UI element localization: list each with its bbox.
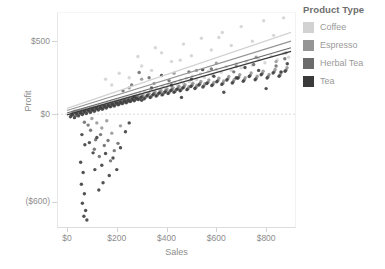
data-point — [221, 31, 224, 34]
data-point — [83, 192, 86, 195]
data-point — [93, 168, 96, 171]
data-point — [172, 91, 175, 94]
y-axis-title: Profit — [23, 71, 33, 131]
data-point — [85, 218, 88, 221]
data-point — [83, 120, 86, 123]
legend-swatch — [303, 40, 314, 51]
data-point — [283, 70, 286, 73]
data-point — [151, 93, 154, 96]
legend-item[interactable]: Herbal Tea — [303, 55, 383, 71]
data-point — [197, 83, 200, 86]
data-point — [200, 37, 203, 40]
data-point — [103, 144, 106, 147]
data-point — [160, 93, 163, 96]
data-point — [264, 87, 267, 90]
x-tick-mark — [216, 228, 217, 232]
data-point — [90, 117, 93, 120]
data-point — [251, 39, 254, 42]
legend-item-label: Espresso — [320, 40, 358, 50]
data-point — [265, 76, 268, 79]
data-point — [97, 188, 100, 191]
data-point — [115, 168, 118, 171]
legend-swatch — [303, 76, 314, 87]
data-point — [124, 130, 127, 133]
y-tick-label: $0 — [6, 109, 50, 119]
data-point — [99, 133, 102, 136]
data-point — [89, 111, 92, 114]
data-point — [240, 66, 243, 69]
data-point — [105, 119, 108, 122]
legend-item[interactable]: Coffee — [303, 19, 383, 35]
data-marks-layer — [57, 12, 296, 228]
data-point — [148, 96, 151, 99]
data-point — [147, 76, 150, 79]
data-point — [137, 71, 140, 74]
data-point — [111, 156, 114, 159]
data-point — [163, 90, 166, 93]
data-point — [169, 89, 172, 92]
data-point — [175, 88, 178, 91]
data-point — [85, 112, 88, 115]
data-point — [81, 171, 84, 174]
data-point — [95, 121, 98, 124]
x-tick-label: $400 — [142, 233, 192, 243]
data-point — [282, 16, 285, 19]
data-point — [271, 71, 274, 74]
data-point — [259, 73, 262, 76]
data-point — [230, 44, 233, 47]
x-tick-mark — [117, 228, 118, 232]
data-point — [248, 75, 251, 78]
data-point — [182, 42, 185, 45]
data-point — [262, 19, 265, 22]
data-point — [80, 183, 83, 186]
data-point — [110, 131, 113, 134]
data-point — [140, 99, 143, 102]
data-point — [81, 201, 84, 204]
data-point — [232, 70, 235, 73]
y-tick-label: $500 — [6, 36, 50, 46]
data-point — [220, 83, 223, 86]
data-point — [89, 129, 92, 132]
data-point — [178, 89, 181, 92]
data-point — [119, 146, 122, 149]
data-point — [215, 80, 218, 83]
data-point — [240, 25, 243, 28]
x-tick-label: $0 — [42, 233, 92, 243]
data-point — [113, 149, 116, 152]
trend-line — [67, 48, 291, 113]
legend-item[interactable]: Tea — [303, 73, 383, 89]
legend-swatch — [303, 58, 314, 69]
data-point — [80, 133, 83, 136]
data-point — [106, 139, 109, 142]
data-point — [235, 76, 238, 79]
data-point — [253, 78, 256, 81]
x-tick-mark — [266, 228, 267, 232]
data-point — [116, 142, 119, 145]
y-tick-label: ($600) — [6, 196, 50, 206]
data-point — [113, 104, 116, 107]
data-point — [287, 56, 290, 59]
data-point — [180, 96, 183, 99]
data-point — [145, 94, 148, 97]
legend-item[interactable]: Espresso — [303, 37, 383, 53]
data-point — [110, 83, 113, 86]
data-point — [189, 85, 192, 88]
data-point — [154, 94, 157, 97]
data-point — [109, 159, 112, 162]
scatter-plot-visualization: Profit $500$0($600) $0$200$400$600$800 S… — [0, 0, 385, 269]
legend-title: Product Type — [303, 4, 383, 15]
data-point — [100, 126, 103, 129]
data-point — [263, 61, 266, 64]
data-point — [185, 88, 188, 91]
data-point — [277, 75, 280, 78]
data-point — [118, 72, 121, 75]
data-point — [160, 51, 163, 54]
data-point — [181, 86, 184, 89]
data-point — [286, 62, 289, 65]
legend-items: CoffeeEspressoHerbal TeaTea — [303, 19, 383, 89]
data-point — [205, 82, 208, 85]
data-point — [93, 147, 96, 150]
data-point — [128, 76, 131, 79]
data-point — [157, 91, 160, 94]
data-point — [88, 141, 91, 144]
